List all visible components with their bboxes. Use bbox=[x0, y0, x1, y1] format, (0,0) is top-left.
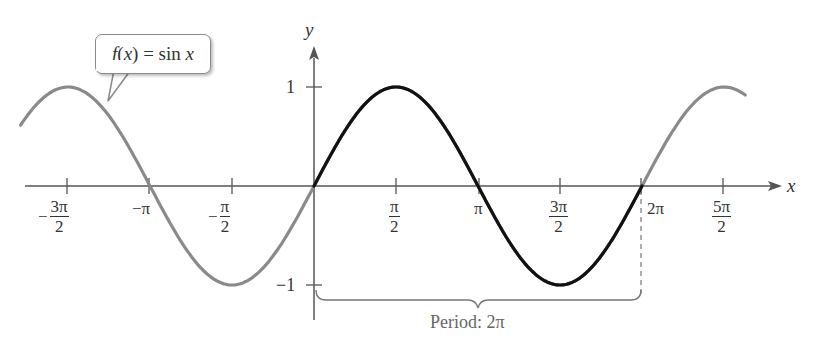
x-tick-label-3pi-2: 3π2 bbox=[549, 198, 568, 235]
x-tick-label-neg-3pi-2: −3π2 bbox=[38, 198, 69, 235]
x-tick-label-pi: π bbox=[474, 200, 483, 217]
y-axis-label: y bbox=[305, 20, 313, 39]
y-tick-label-neg1: −1 bbox=[276, 276, 295, 294]
callout-eq: = sin bbox=[138, 43, 185, 65]
x-tick-label-pi-2: π2 bbox=[389, 198, 400, 235]
callout-pointer bbox=[108, 70, 130, 101]
x-tick-label-5pi-2: 5π2 bbox=[712, 198, 731, 235]
x-tick-label-2pi: 2π bbox=[647, 200, 664, 217]
callout-var: x bbox=[186, 43, 194, 65]
x-axis-label: x bbox=[787, 176, 795, 195]
y-axis-arrow-icon bbox=[309, 46, 319, 60]
period-brace bbox=[316, 290, 641, 308]
period-label: Period: 2π bbox=[430, 312, 505, 333]
x-tick-label-neg-pi: −π bbox=[132, 200, 150, 217]
y-tick-label-1: 1 bbox=[286, 78, 295, 96]
callout-tail-mask bbox=[96, 60, 126, 71]
x-tick-label-neg-pi-2: −π2 bbox=[208, 198, 230, 235]
